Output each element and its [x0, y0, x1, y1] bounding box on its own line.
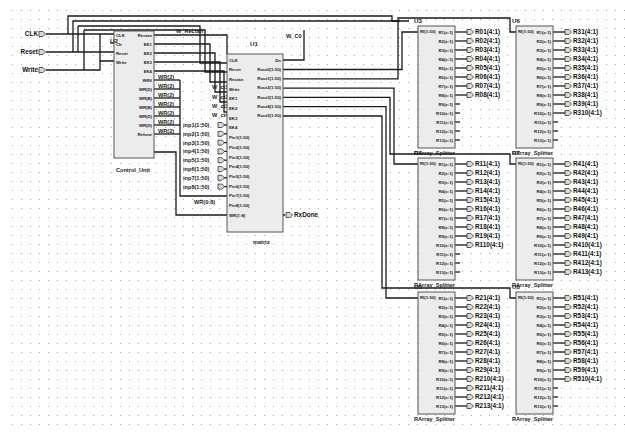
- port-flag-icon: [467, 341, 474, 346]
- output-port[interactable]: R57(4:1): [565, 348, 598, 356]
- output-port[interactable]: R28(4:1): [467, 357, 500, 365]
- pin-label: R6(x:1): [438, 207, 453, 212]
- output-port[interactable]: R11(4:1): [467, 160, 500, 168]
- pin-label: Reset: [116, 51, 128, 56]
- input-port-inp7[interactable]: inp7(1:50): [183, 175, 225, 181]
- component-name: matrix: [253, 239, 271, 245]
- output-port[interactable]: R08(4:1): [467, 91, 500, 99]
- component-name: RArray_Splitter: [414, 416, 456, 422]
- output-port[interactable]: R04(4:1): [467, 55, 500, 63]
- output-port[interactable]: R02(4:1): [467, 37, 500, 45]
- output-port[interactable]: R110(4:1): [467, 241, 503, 249]
- output-port[interactable]: R36(4:1): [565, 73, 598, 81]
- output-port-label: R07(4:1): [475, 82, 500, 90]
- output-port[interactable]: R24(4:1): [467, 321, 500, 329]
- output-port[interactable]: R31(4:1): [565, 28, 598, 36]
- output-port[interactable]: R15(4:1): [467, 196, 500, 204]
- port-flag-icon: [467, 395, 474, 400]
- input-port-inp8[interactable]: inp8(1:50): [183, 184, 225, 190]
- output-port[interactable]: R211(4:1): [467, 384, 503, 392]
- output-port[interactable]: R42(4:1): [565, 169, 598, 177]
- output-port-label: R04(4:1): [475, 55, 500, 63]
- input-port-inp5[interactable]: inp5(1:50): [183, 157, 225, 163]
- output-port[interactable]: R53(4:1): [565, 312, 598, 320]
- output-port[interactable]: R56(4:1): [565, 339, 598, 347]
- output-port[interactable]: R19(4:1): [467, 232, 500, 240]
- output-port[interactable]: R51(4:1): [565, 294, 598, 302]
- port-flag-icon: [565, 261, 572, 266]
- output-port[interactable]: R47(4:1): [565, 214, 598, 222]
- output-port[interactable]: R35(4:1): [565, 64, 598, 72]
- output-port-rxdone[interactable]: RxDone: [286, 211, 319, 218]
- port-flag-icon: [565, 30, 572, 35]
- output-port[interactable]: R58(4:1): [565, 357, 598, 365]
- output-port[interactable]: R06(4:1): [467, 73, 500, 81]
- output-port[interactable]: R18(4:1): [467, 223, 500, 231]
- components[interactable]: CLKResetWriteU2Control_UnitCLKChResetWri…: [21, 17, 602, 422]
- input-port-inp6[interactable]: inp6(1:50): [183, 166, 225, 172]
- output-port[interactable]: R410(4:1): [565, 241, 602, 249]
- output-port[interactable]: R21(4:1): [467, 294, 500, 302]
- control-unit-block[interactable]: U2Control_UnitCLKChResetWriteRectanEK1EK…: [110, 31, 154, 173]
- output-port[interactable]: R34(4:1): [565, 55, 598, 63]
- output-port[interactable]: R01(4:1): [467, 28, 500, 36]
- output-port-label: R42(4:1): [573, 169, 598, 177]
- schematic-canvas[interactable]: W_RectanW_ct1W_ct2W_ct3W_ct4WR(2)WR(2)WR…: [0, 0, 625, 433]
- output-port-label: R37(4:1): [573, 82, 598, 90]
- output-port[interactable]: R16(4:1): [467, 205, 500, 213]
- port-flag-icon: [218, 140, 225, 145]
- output-port[interactable]: R212(4:1): [467, 393, 504, 401]
- output-port[interactable]: R12(4:1): [467, 169, 500, 177]
- input-port-label: Write: [22, 66, 38, 73]
- output-port[interactable]: R52(4:1): [565, 303, 598, 311]
- output-port[interactable]: R43(4:1): [565, 178, 598, 186]
- output-port[interactable]: R33(4:1): [565, 46, 598, 54]
- output-port[interactable]: R310(4:1): [565, 109, 602, 117]
- output-port[interactable]: R27(4:1): [467, 348, 500, 356]
- output-port[interactable]: R48(4:1): [565, 223, 598, 231]
- output-port[interactable]: R26(4:1): [467, 339, 500, 347]
- output-port[interactable]: R45(4:1): [565, 196, 598, 204]
- output-port[interactable]: R510(4:1): [565, 375, 602, 383]
- output-port[interactable]: R39(4:1): [565, 100, 598, 108]
- input-port-inp3[interactable]: inp3(1:50): [183, 140, 225, 146]
- port-flag-icon: [467, 66, 474, 71]
- output-port[interactable]: R38(4:1): [565, 91, 598, 99]
- output-port[interactable]: R22(4:1): [467, 303, 500, 311]
- output-port[interactable]: R59(4:1): [565, 366, 598, 374]
- output-port[interactable]: R413(4:1): [565, 268, 602, 276]
- output-port[interactable]: R41(4:1): [565, 160, 598, 168]
- output-port[interactable]: R213(4:1): [467, 402, 504, 410]
- output-port[interactable]: R29(4:1): [467, 366, 500, 374]
- output-port[interactable]: R07(4:1): [467, 82, 500, 90]
- output-port[interactable]: R37(4:1): [565, 82, 598, 90]
- output-port[interactable]: R32(4:1): [565, 37, 598, 45]
- input-port-write[interactable]: Write: [22, 66, 45, 73]
- output-port[interactable]: R23(4:1): [467, 312, 500, 320]
- input-port-inp4[interactable]: inp4(1:50): [183, 148, 225, 154]
- output-port-label: R01(4:1): [475, 28, 500, 36]
- output-port[interactable]: R03(4:1): [467, 46, 500, 54]
- output-port[interactable]: R25(4:1): [467, 330, 500, 338]
- output-port[interactable]: R412(4:1): [565, 259, 602, 267]
- input-port-inp2[interactable]: inp2(1:50): [183, 131, 225, 137]
- input-port-reset[interactable]: Reset: [21, 48, 46, 55]
- input-port-clk[interactable]: CLK: [25, 30, 46, 37]
- output-port[interactable]: R411(4:1): [565, 250, 601, 258]
- output-port[interactable]: R44(4:1): [565, 187, 598, 195]
- output-port[interactable]: R05(4:1): [467, 64, 500, 72]
- output-port[interactable]: R54(4:1): [565, 321, 598, 329]
- output-port[interactable]: R49(4:1): [565, 232, 598, 240]
- schematic-drawing[interactable]: W_RectanW_ct1W_ct2W_ct3W_ct4WR(2)WR(2)WR…: [0, 0, 625, 433]
- input-port-inp1[interactable]: inp1(1:50): [183, 122, 225, 128]
- net-label: W_ct1: [212, 84, 228, 90]
- output-port[interactable]: R46(4:1): [565, 205, 598, 213]
- matrix-block[interactable]: U1matrixCLKResetRectanWriteEK1EK2EK3EK4P…: [227, 40, 283, 245]
- output-port[interactable]: R210(4:1): [467, 375, 504, 383]
- output-port[interactable]: R17(4:1): [467, 214, 500, 222]
- input-port-label: inp4(1:50): [183, 148, 210, 154]
- output-port[interactable]: R14(4:1): [467, 187, 500, 195]
- pin-label: R7(x:1): [438, 216, 453, 221]
- output-port[interactable]: R13(4:1): [467, 178, 500, 186]
- output-port[interactable]: R55(4:1): [565, 330, 598, 338]
